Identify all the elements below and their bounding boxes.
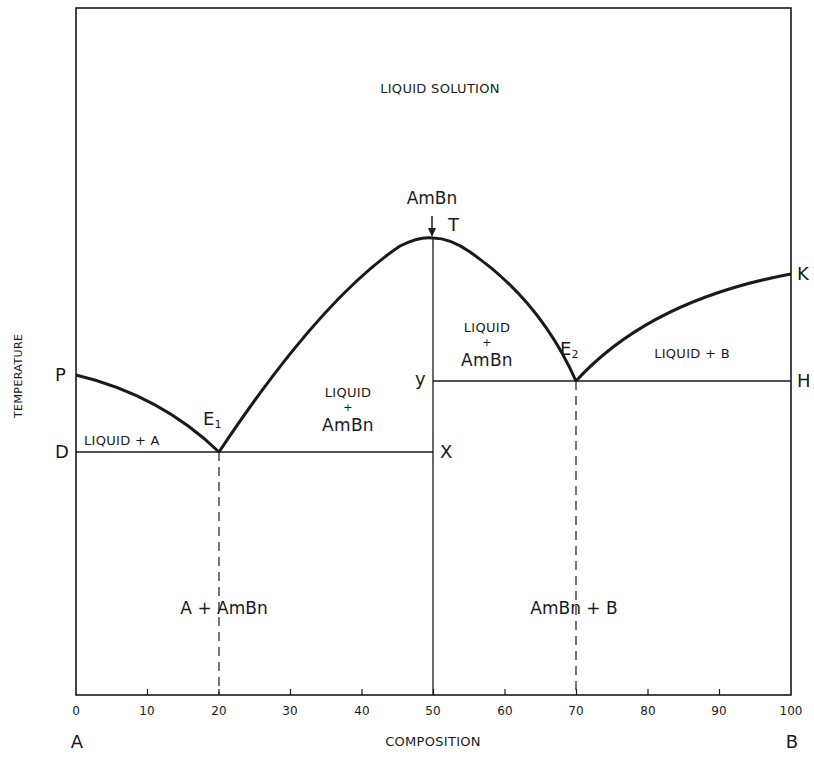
phase-diagram-plot [0, 0, 814, 760]
point-k: K [797, 265, 809, 283]
tick-10: 10 [139, 705, 154, 717]
tick-80: 80 [640, 705, 655, 717]
tick-60: 60 [497, 705, 512, 717]
region-a-ambn: A + AmBn [180, 600, 267, 617]
tick-40: 40 [354, 705, 369, 717]
point-y: y [415, 370, 426, 388]
tick-0: 0 [72, 705, 80, 717]
compound-label: AmBn [407, 190, 458, 207]
tick-50: 50 [425, 705, 440, 717]
tick-30: 30 [282, 705, 297, 717]
point-h: H [797, 372, 811, 390]
point-p: P [55, 366, 66, 384]
liquidus-e1-t-e2 [219, 238, 576, 452]
y-axis-label: TEMPERATURE [12, 334, 25, 418]
point-x: X [440, 443, 452, 461]
x-axis-label: COMPOSITION [385, 735, 481, 748]
point-d: D [55, 443, 69, 461]
region-liquid-ambn-right: LIQUID + AmBn [461, 320, 513, 371]
point-e1: E1 [203, 410, 221, 430]
liquidus-e2-k [576, 274, 791, 381]
tick-100: 100 [780, 705, 803, 717]
point-e2: E2 [560, 340, 578, 360]
arrow-down-icon [428, 228, 436, 237]
region-liquid-solution: LIQUID SOLUTION [380, 82, 500, 95]
region-liquid-b: LIQUID + B [654, 347, 730, 360]
tick-90: 90 [711, 705, 726, 717]
region-liquid-a: LIQUID + A [84, 434, 160, 447]
tick-20: 20 [211, 705, 226, 717]
point-t: T [448, 216, 459, 234]
tick-70: 70 [568, 705, 583, 717]
x-end-label-a: A [71, 733, 83, 751]
region-ambn-b: AmBn + B [530, 600, 617, 617]
region-liquid-ambn-left: LIQUID + AmBn [322, 385, 374, 436]
x-end-label-b: B [786, 733, 798, 751]
